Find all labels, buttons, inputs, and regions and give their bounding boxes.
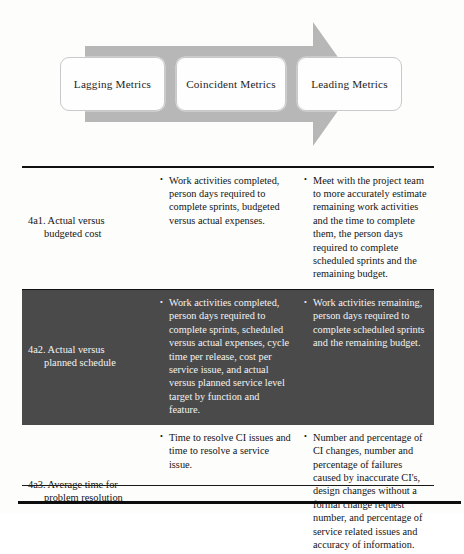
stage-box-coincident-metrics[interactable]: Coincident Metrics <box>176 57 286 111</box>
leading-metrics-cell: Meet with the project team to more accur… <box>298 168 434 289</box>
coincident-metrics-cell: Work activities completed, person days r… <box>154 168 298 289</box>
table-row-highlighted: 4a2. Actual versus planned schedule Work… <box>22 290 434 425</box>
row-title-line1: 4a2. Actual versus <box>28 344 104 355</box>
metrics-progression-diagram: Lagging Metrics Coincident Metrics Leadi… <box>0 0 464 160</box>
row-title: 4a2. Actual versus planned schedule <box>28 343 116 370</box>
list-item: Number and percentage of CI changes, num… <box>304 431 428 552</box>
bullet-list: Time to resolve CI issues and time to re… <box>160 431 292 471</box>
table-row: 4a1. Actual versus budgeted cost Work ac… <box>22 168 434 289</box>
row-title-line1: 4a1. Actual versus <box>28 215 104 226</box>
bullet-list: Work activities completed, person days r… <box>160 174 292 228</box>
list-item: Work activities remaining, person days r… <box>304 296 428 350</box>
stage-label: Leading Metrics <box>311 78 388 90</box>
list-item: Meet with the project team to more accur… <box>304 174 428 281</box>
row-title-line2: planned schedule <box>28 356 116 369</box>
row-label-cell: 4a3. Average time for problem resolution <box>22 425 154 554</box>
table-row: 4a3. Average time for problem resolution… <box>22 425 434 554</box>
stage-label: Lagging Metrics <box>74 78 151 90</box>
table-bottom-rule <box>22 485 434 486</box>
stage-box-lagging-metrics[interactable]: Lagging Metrics <box>60 57 165 111</box>
page-footer-rule <box>18 501 461 504</box>
list-item: Work activities completed, person days r… <box>160 174 292 228</box>
row-label-cell: 4a2. Actual versus planned schedule <box>22 290 154 425</box>
coincident-metrics-cell: Work activities completed, person days r… <box>154 290 298 425</box>
stage-label: Coincident Metrics <box>186 78 276 90</box>
bullet-list: Work activities completed, person days r… <box>160 296 292 417</box>
metrics-table: 4a1. Actual versus budgeted cost Work ac… <box>22 166 434 554</box>
row-title: 4a1. Actual versus budgeted cost <box>28 214 104 241</box>
stage-box-leading-metrics[interactable]: Leading Metrics <box>297 57 402 111</box>
coincident-metrics-cell: Time to resolve CI issues and time to re… <box>154 425 298 554</box>
bullet-list: Meet with the project team to more accur… <box>304 174 428 281</box>
leading-metrics-cell: Number and percentage of CI changes, num… <box>298 425 434 554</box>
list-item: Work activities completed, person days r… <box>160 296 292 417</box>
list-item: Time to resolve CI issues and time to re… <box>160 431 292 471</box>
row-label-cell: 4a1. Actual versus budgeted cost <box>22 168 154 289</box>
bullet-list: Work activities remaining, person days r… <box>304 296 428 350</box>
bullet-list: Number and percentage of CI changes, num… <box>304 431 428 552</box>
row-title-line2: budgeted cost <box>28 227 104 240</box>
leading-metrics-cell: Work activities remaining, person days r… <box>298 290 434 425</box>
